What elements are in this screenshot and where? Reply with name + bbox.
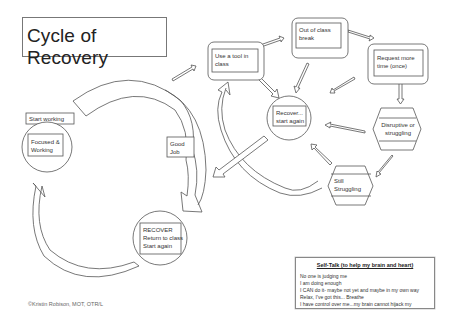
self-talk-line: No one is judging me (300, 273, 419, 280)
self-talk-line: I CAN do it- maybe not yet and maybe in … (300, 287, 419, 294)
node-still-struggling-label: Still Struggling (334, 177, 361, 193)
node-start-working-label: Start working (29, 115, 64, 123)
self-talk-line: I am doing enough (300, 280, 419, 287)
node-request-time-label: Request more time (once) (377, 54, 415, 70)
node-focused-label: Focused & Working (31, 138, 60, 154)
node-recover-start-label: Recover... start again (276, 109, 304, 125)
node-out-of-class-label: Out of class break (299, 26, 331, 42)
node-good-job-label: Good Job (170, 140, 185, 156)
self-talk-lines: No one is judging me I am doing enough I… (300, 273, 419, 308)
page-title: Cycle of Recovery (27, 25, 166, 69)
node-use-tool-label: Use a tool in class (215, 52, 248, 68)
copyright-credit: ©Kristin Robison, MOT, OTR/L (28, 301, 103, 307)
self-talk-line: Relax, I've got this... Breathe (300, 294, 419, 301)
node-recover-return-label: RECOVER Return to class Start again (143, 226, 183, 250)
self-talk-heading: Self-Talk (to help my brain and heart) (296, 262, 434, 268)
self-talk-line: I have control over me...my brain cannot… (300, 301, 419, 308)
node-disruptive-label: Disruptive or struggling (380, 121, 416, 137)
title-box: Cycle of Recovery (22, 17, 167, 57)
self-talk-box: Self-Talk (to help my brain and heart) N… (295, 257, 435, 309)
